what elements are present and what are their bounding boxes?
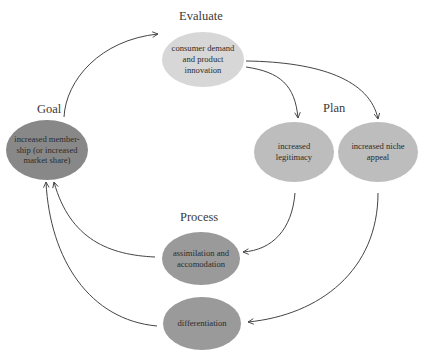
arrow-assimilation-to-goal: [54, 182, 155, 257]
arrow-niche-to-differentiation: [248, 193, 378, 322]
node-text: increased niche appeal: [346, 141, 410, 162]
node-consumer-demand: consumer demand and product innovation: [162, 32, 244, 87]
node-differentiation: differentiation: [163, 297, 241, 350]
node-text: increased member-ship (or increased mark…: [10, 134, 84, 166]
arrow-evaluate-to-legitimacy: [246, 67, 298, 118]
node-text: increased legitimacy: [269, 141, 319, 162]
arrow-goal-to-evaluate: [64, 34, 158, 117]
stage-label-plan: Plan: [323, 101, 345, 116]
node-text: consumer demand and product innovation: [168, 43, 238, 75]
node-text: differentiation: [178, 318, 227, 329]
node-increased-membership: increased member-ship (or increased mark…: [6, 120, 88, 180]
arrow-differentiation-to-goal: [46, 182, 157, 326]
node-assimilation: assimilation and accomodation: [162, 232, 240, 285]
arrow-evaluate-to-niche: [246, 61, 378, 119]
stage-label-goal: Goal: [37, 102, 61, 117]
arrow-legitimacy-to-assimilation: [243, 193, 295, 252]
stage-label-evaluate: Evaluate: [179, 9, 223, 24]
stage-label-process: Process: [180, 210, 218, 225]
node-increased-niche-appeal: increased niche appeal: [338, 122, 418, 182]
node-increased-legitimacy: increased legitimacy: [254, 122, 334, 182]
node-text: assimilation and accomodation: [171, 248, 231, 269]
